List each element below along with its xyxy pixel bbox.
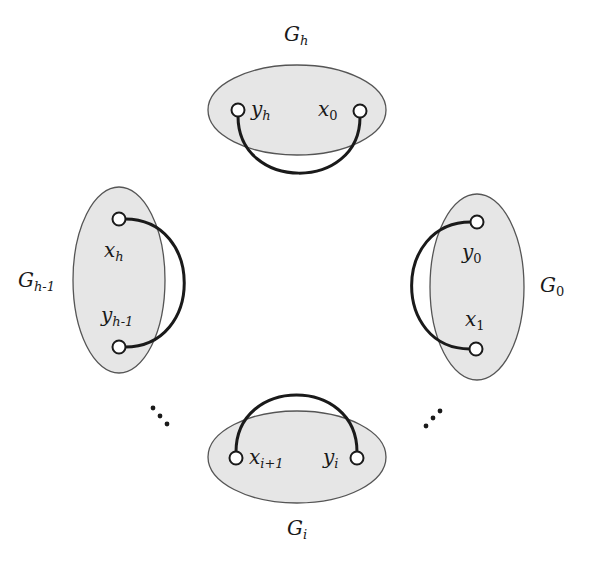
node-label-y-0: y0 [462,242,482,262]
lower-left-dots [151,406,170,427]
group-label-g-0: G0 [540,275,564,295]
node-x-1 [470,343,483,356]
group-label-g-h-1: Gh-1 [18,270,55,290]
node-label-y-h1: yh-1 [101,305,133,325]
diagram-canvas [0,0,589,562]
group-label-g-h: Gh [284,24,308,44]
node-label-y-h: yh [251,99,271,119]
node-x-0 [354,105,367,118]
node-label-x-h: xh [104,240,124,260]
node-label-x-1: x1 [465,309,485,329]
node-label-y-i: yi [323,447,338,467]
node-y-h1 [113,341,126,354]
lower-right-dots [424,409,443,429]
node-y-h [232,104,245,117]
node-x-i1 [230,452,243,465]
node-x-h [113,213,126,226]
node-label-x-i1: xi+1 [249,447,284,467]
node-label-x-0: x0 [318,99,338,119]
group-label-g-i: Gi [287,518,307,538]
node-y-i [351,452,364,465]
node-y-0 [471,216,484,229]
